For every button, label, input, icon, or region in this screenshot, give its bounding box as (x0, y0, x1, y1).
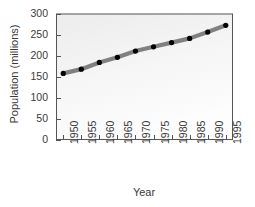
y-axis-tick-label: 300 (14, 7, 48, 19)
y-axis-tick-label: 150 (14, 70, 48, 82)
x-axis-tick-label: 1965 (122, 121, 134, 144)
data-point (79, 67, 84, 72)
y-axis-tick-label: 50 (14, 112, 48, 124)
x-axis-tick-label: 1955 (86, 121, 98, 144)
x-axis-tick-label: 1995 (231, 121, 243, 144)
data-point (61, 71, 66, 76)
x-axis-tick-label: 1950 (68, 121, 80, 144)
x-axis-tick-label: 1985 (195, 121, 207, 144)
data-point (133, 48, 138, 53)
y-axis-tick-label: 200 (14, 49, 48, 61)
x-axis-tick-label: 1975 (159, 121, 171, 144)
x-axis-title: Year (55, 186, 233, 198)
x-axis-tick-label: 1970 (140, 121, 152, 144)
data-point (169, 40, 174, 45)
data-point (97, 60, 102, 65)
x-axis-tick-label: 1980 (177, 121, 189, 144)
y-axis-tick-label: 250 (14, 28, 48, 40)
x-axis-tick-label: 1960 (104, 121, 116, 144)
y-axis-tick-label: 0 (14, 133, 48, 145)
data-point (205, 29, 210, 34)
population-line-chart: Population (millions) Year 0501001502002… (0, 0, 255, 207)
data-point (187, 36, 192, 41)
data-point (151, 44, 156, 49)
data-point (223, 23, 228, 28)
y-axis-tick-label: 100 (14, 91, 48, 103)
data-point (115, 55, 120, 60)
x-axis-tick-label: 1990 (213, 121, 225, 144)
